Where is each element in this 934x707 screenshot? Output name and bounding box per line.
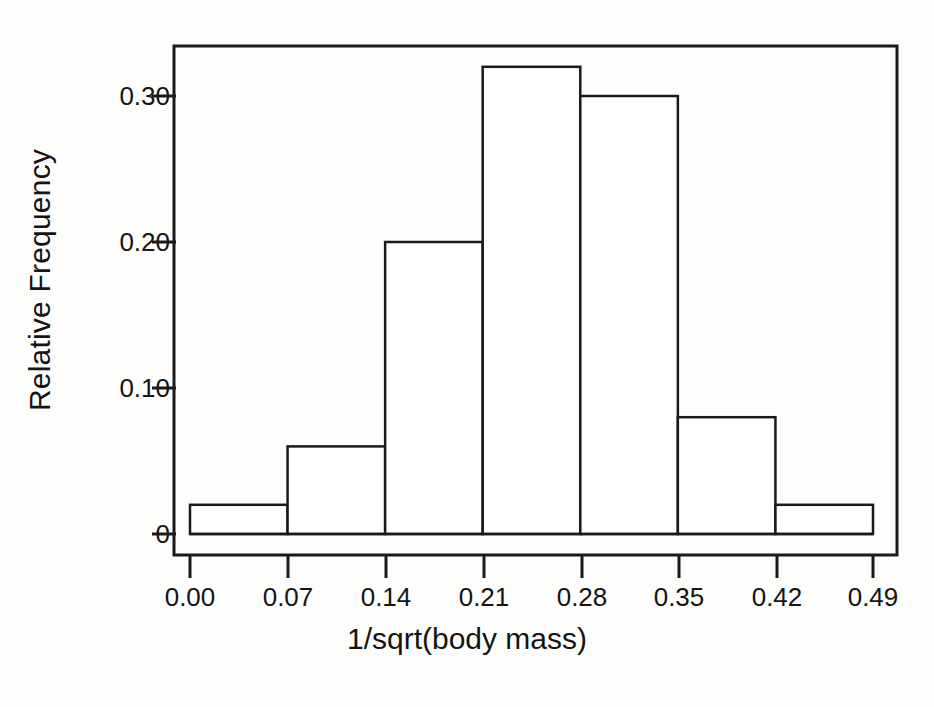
histogram-bar [775, 505, 873, 534]
histogram-figure: Relative Frequency 0.30 0.20 0.10 0 0.00… [0, 0, 934, 707]
histogram-bar [483, 67, 581, 534]
histogram-bar [288, 446, 386, 534]
x-axis-tickmarks [190, 556, 873, 578]
histogram-bar [385, 242, 483, 534]
histogram-bar [678, 417, 776, 534]
y-axis-tickmarks [152, 96, 176, 534]
plot-area [0, 0, 934, 707]
histogram-bar [580, 96, 678, 534]
histogram-bar [190, 505, 288, 534]
histogram-bars [190, 67, 873, 534]
